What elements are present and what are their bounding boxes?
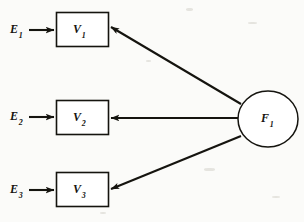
observed-variable-label-v3: V3 (73, 183, 85, 198)
error-symbol: E (10, 109, 18, 123)
factor-subscript: 1 (270, 120, 274, 129)
error-term-label-e2: E2 (10, 110, 22, 125)
error-symbol: E (10, 22, 18, 36)
diagram-canvas (0, 0, 304, 222)
error-symbol: E (10, 182, 18, 196)
variable-symbol: V (73, 182, 81, 196)
variable-symbol: V (73, 110, 81, 124)
error-subscript: 3 (19, 191, 23, 200)
path-arrow-f1-to-v3 (111, 136, 241, 189)
variable-subscript: 3 (82, 191, 86, 200)
scan-speck (248, 22, 257, 24)
variable-subscript: 1 (82, 31, 86, 40)
scan-speck (272, 196, 280, 198)
path-diagram-figure: V1 V2 V3 F1 E1 E2 E3 (0, 0, 304, 222)
variable-symbol: V (73, 22, 81, 36)
scan-speck (100, 212, 106, 214)
observed-variable-label-v1: V1 (73, 23, 85, 38)
error-subscript: 2 (19, 118, 23, 127)
factor-symbol: F (261, 111, 269, 125)
latent-factor-label-f1: F1 (261, 112, 273, 127)
error-term-label-e3: E3 (10, 183, 22, 198)
scan-speck (146, 60, 151, 62)
error-subscript: 1 (19, 31, 23, 40)
error-term-label-e1: E1 (10, 23, 22, 38)
observed-variable-label-v2: V2 (73, 111, 85, 126)
variable-subscript: 2 (82, 119, 86, 128)
scan-speck (204, 168, 215, 171)
path-arrow-f1-to-v1 (111, 27, 241, 104)
scan-speck (186, 8, 193, 11)
